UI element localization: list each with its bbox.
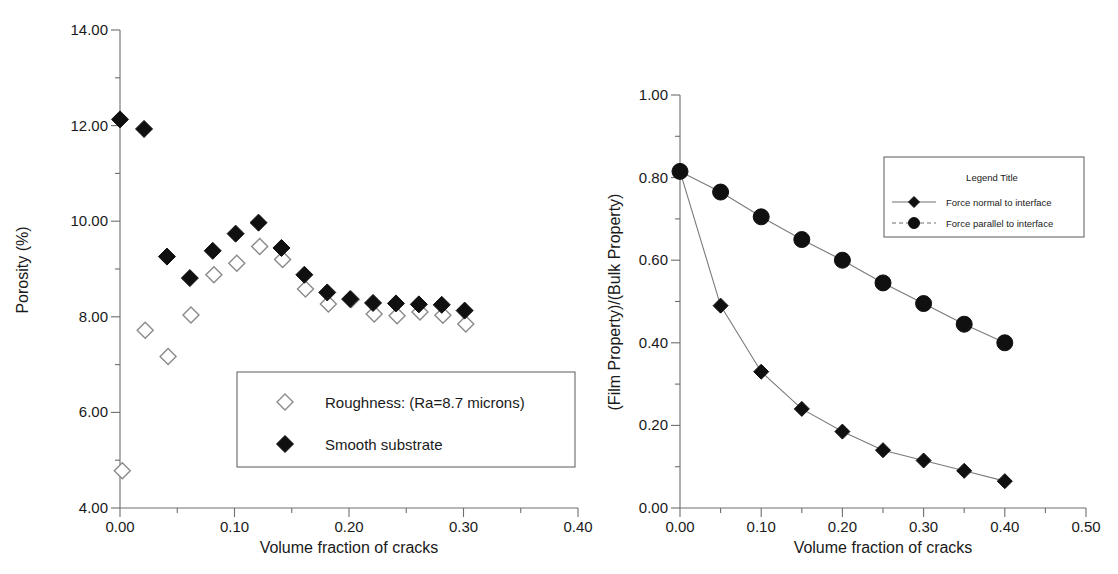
legend-label: Roughness: (Ra=8.7 microns) <box>325 394 525 411</box>
y-tick-label: 1.00 <box>639 86 668 103</box>
data-point <box>296 266 313 283</box>
x-tick-label: 0.30 <box>909 518 938 535</box>
charts-canvas: 4.006.008.0010.0012.0014.000.000.100.200… <box>0 0 1118 574</box>
data-point <box>997 474 1012 489</box>
data-point <box>160 348 176 364</box>
data-point <box>876 443 891 458</box>
data-point <box>433 296 450 313</box>
data-point <box>342 291 359 308</box>
y-tick-label: 8.00 <box>79 308 108 325</box>
data-point <box>713 298 728 313</box>
legend-label: Force normal to interface <box>946 197 1052 208</box>
y-tick-label: 4.00 <box>79 499 108 516</box>
x-axis-title: Volume fraction of cracks <box>260 539 439 556</box>
data-point <box>365 294 382 311</box>
x-tick-label: 0.00 <box>105 518 134 535</box>
data-point <box>227 225 244 242</box>
x-tick-label: 0.50 <box>1071 518 1100 535</box>
x-tick-label: 0.20 <box>828 518 857 535</box>
data-point <box>834 252 850 268</box>
data-point <box>229 255 245 271</box>
data-point <box>158 248 175 265</box>
data-point <box>183 307 199 323</box>
y-tick-label: 0.60 <box>639 251 668 268</box>
data-point <box>713 184 729 200</box>
data-point <box>835 424 850 439</box>
x-tick-label: 0.00 <box>665 518 694 535</box>
y-tick-label: 0.20 <box>639 416 668 433</box>
data-point <box>136 120 153 137</box>
data-point <box>387 295 404 312</box>
data-point <box>319 284 336 301</box>
legend-marker <box>909 218 920 229</box>
x-tick-label: 0.30 <box>449 518 478 535</box>
data-point <box>916 296 932 312</box>
x-axis-title: Volume fraction of cracks <box>794 539 973 556</box>
y-axis-title: Porosity (%) <box>14 226 31 313</box>
data-point <box>204 242 221 259</box>
legend-film-property-chart[interactable]: Legend TitleForce normal to interfaceFor… <box>884 157 1084 237</box>
data-point <box>957 463 972 478</box>
legend-title: Legend Title <box>966 172 1018 183</box>
legend-label: Force parallel to interface <box>946 218 1053 229</box>
data-point <box>753 209 769 225</box>
y-axis-title: (Film Property)/(Bulk Property) <box>606 194 623 411</box>
y-tick-label: 0.80 <box>639 169 668 186</box>
data-point <box>297 281 313 297</box>
y-tick-label: 0.40 <box>639 334 668 351</box>
y-tick-label: 6.00 <box>79 403 108 420</box>
legend-label: Smooth substrate <box>325 436 443 453</box>
data-point <box>794 232 810 248</box>
chart-film-property-chart: 0.000.200.400.600.801.000.000.100.200.30… <box>606 86 1101 556</box>
data-point <box>997 335 1013 351</box>
y-tick-label: 12.00 <box>70 117 108 134</box>
x-tick-label: 0.10 <box>220 518 249 535</box>
y-tick-label: 10.00 <box>70 212 108 229</box>
x-tick-label: 0.10 <box>747 518 776 535</box>
y-tick-label: 14.00 <box>70 21 108 38</box>
data-point <box>875 275 891 291</box>
y-tick-label: 0.00 <box>639 499 668 516</box>
x-tick-label: 0.20 <box>334 518 363 535</box>
data-point <box>137 322 153 338</box>
data-point <box>252 239 268 255</box>
data-point <box>956 316 972 332</box>
figure-root: 4.006.008.0010.0012.0014.000.000.100.200… <box>0 0 1118 574</box>
data-point <box>916 453 931 468</box>
legend-porosity-chart[interactable]: Roughness: (Ra=8.7 microns)Smooth substr… <box>237 372 575 467</box>
data-point <box>273 239 290 256</box>
data-point <box>114 463 130 479</box>
data-point <box>181 270 198 287</box>
data-point <box>250 214 267 231</box>
data-point <box>672 163 688 179</box>
data-point <box>206 267 222 283</box>
x-tick-label: 0.40 <box>990 518 1019 535</box>
chart-porosity-chart: 4.006.008.0010.0012.0014.000.000.100.200… <box>14 21 593 556</box>
data-point <box>456 302 473 319</box>
x-tick-label: 0.40 <box>563 518 592 535</box>
